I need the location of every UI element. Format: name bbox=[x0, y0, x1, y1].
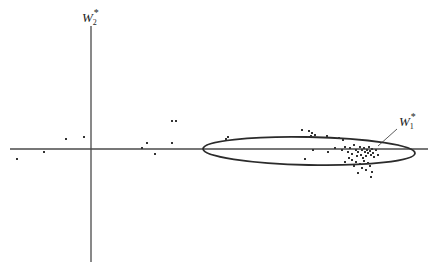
data-point bbox=[369, 150, 371, 152]
data-point bbox=[367, 152, 369, 154]
data-point bbox=[344, 161, 346, 163]
data-point bbox=[307, 136, 309, 138]
data-point bbox=[355, 149, 357, 151]
data-point bbox=[311, 132, 313, 134]
data-point bbox=[377, 154, 379, 156]
w2-label-sup: * bbox=[94, 7, 99, 18]
data-point bbox=[146, 142, 148, 144]
w1-ellipse bbox=[203, 135, 416, 167]
data-point bbox=[334, 147, 336, 149]
w2-label-sub: 2 bbox=[93, 18, 97, 27]
data-point bbox=[83, 136, 85, 138]
data-point bbox=[342, 139, 344, 141]
data-point bbox=[344, 146, 346, 148]
data-point bbox=[327, 151, 329, 153]
data-point bbox=[363, 147, 365, 149]
data-point bbox=[355, 161, 357, 163]
data-point bbox=[370, 176, 372, 178]
data-point bbox=[308, 130, 310, 132]
data-point bbox=[360, 154, 362, 156]
data-point bbox=[301, 129, 303, 131]
w1-label-sub: 1 bbox=[410, 122, 414, 131]
data-point bbox=[367, 162, 369, 164]
data-point bbox=[353, 144, 355, 146]
data-point bbox=[372, 152, 374, 154]
data-point bbox=[365, 155, 367, 157]
data-point bbox=[154, 153, 156, 155]
diagram: W2* W1* bbox=[0, 0, 428, 269]
data-point bbox=[349, 147, 351, 149]
data-point bbox=[375, 149, 377, 151]
w1-label-sup: * bbox=[411, 111, 416, 122]
data-point bbox=[348, 157, 350, 159]
data-point bbox=[351, 159, 353, 161]
data-point bbox=[365, 169, 367, 171]
data-point bbox=[341, 149, 343, 151]
data-point bbox=[304, 158, 306, 160]
data-point bbox=[368, 146, 370, 148]
w2-label-base: W bbox=[82, 10, 93, 25]
data-point bbox=[353, 165, 355, 167]
data-point bbox=[362, 157, 364, 159]
diagram-canvas bbox=[0, 0, 428, 269]
w1-ellipse-label: W1* bbox=[399, 112, 416, 131]
data-point bbox=[356, 155, 358, 157]
data-point bbox=[364, 151, 366, 153]
data-point bbox=[357, 151, 359, 153]
data-point bbox=[361, 149, 363, 151]
data-point bbox=[225, 138, 227, 140]
data-point bbox=[141, 147, 143, 149]
data-point bbox=[359, 146, 361, 148]
data-point bbox=[175, 120, 177, 122]
data-point bbox=[347, 151, 349, 153]
data-point bbox=[16, 158, 18, 160]
w1-label-base: W bbox=[399, 114, 410, 129]
data-point bbox=[351, 153, 353, 155]
data-point bbox=[65, 138, 67, 140]
data-point bbox=[326, 135, 328, 137]
data-point bbox=[171, 142, 173, 144]
data-point bbox=[227, 136, 229, 138]
data-point bbox=[43, 151, 45, 153]
data-point bbox=[357, 172, 359, 174]
data-point bbox=[310, 135, 312, 137]
data-point bbox=[171, 120, 173, 122]
data-point bbox=[359, 163, 361, 165]
data-point bbox=[370, 154, 372, 156]
data-point bbox=[366, 149, 368, 151]
data-point bbox=[312, 149, 314, 151]
data-point bbox=[369, 165, 371, 167]
data-point bbox=[371, 148, 373, 150]
w2-axis-label: W2* bbox=[82, 8, 99, 27]
data-point bbox=[361, 167, 363, 169]
data-point bbox=[363, 160, 365, 162]
data-point bbox=[371, 171, 373, 173]
data-point bbox=[373, 156, 375, 158]
data-point bbox=[338, 137, 340, 139]
data-point bbox=[314, 134, 316, 136]
